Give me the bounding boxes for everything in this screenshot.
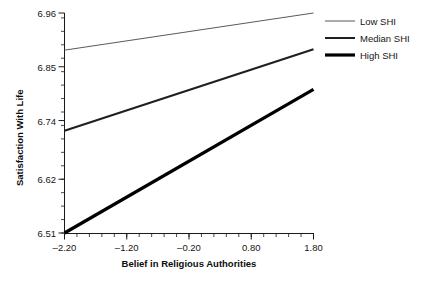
chart-figure: 6.516.626.746.856.96 –2.20–1.20–0.200.80…	[0, 0, 421, 281]
legend-label-median-shi: Median SHI	[360, 33, 410, 44]
series-line-high-shi	[65, 89, 314, 233]
x-tick-label-4: 1.80	[304, 242, 323, 253]
series-line-median-shi	[65, 49, 314, 131]
legend-swatch-group	[325, 21, 355, 55]
y-axis-major-ticks	[59, 13, 65, 233]
y-axis-title: Satisfaction With Life	[14, 89, 25, 186]
x-tick-label-1: –1.20	[115, 242, 139, 253]
y-tick-label-3: 6.85	[24, 61, 56, 72]
y-tick-label-0: 6.51	[24, 228, 56, 239]
legend-label-high-shi: High SHI	[360, 50, 398, 61]
legend-label-low-shi: Low SHI	[360, 16, 396, 27]
x-tick-label-3: 0.80	[242, 242, 261, 253]
x-axis-title: Belief in Religious Authorities	[122, 258, 257, 269]
y-tick-label-2: 6.74	[24, 115, 56, 126]
series-line-low-shi	[65, 13, 314, 50]
y-tick-label-1: 6.62	[24, 174, 56, 185]
y-tick-label-4: 6.96	[24, 8, 56, 19]
x-tick-label-2: –0.20	[177, 242, 201, 253]
x-tick-label-0: –2.20	[53, 242, 77, 253]
plot-area	[0, 0, 421, 281]
y-axis-minor-ticks	[61, 18, 65, 233]
x-axis-minor-ticks	[65, 234, 314, 238]
data-series-group	[65, 13, 314, 233]
